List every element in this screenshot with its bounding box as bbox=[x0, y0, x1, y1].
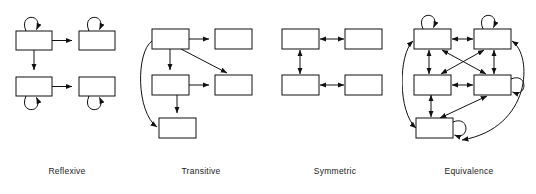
relation-properties-figure: Reflexive Transitive bbox=[0, 0, 536, 194]
edge-diagonal-arrow bbox=[181, 49, 227, 73]
panel-symmetric: Symmetric bbox=[268, 0, 402, 194]
equivalence-diagram bbox=[402, 0, 536, 165]
node-box bbox=[79, 31, 115, 50]
panel-transitive: Transitive bbox=[134, 0, 268, 194]
node-box bbox=[414, 75, 451, 95]
node-box bbox=[282, 75, 319, 95]
node-box bbox=[152, 29, 189, 49]
edge-diagonal-arrow bbox=[442, 50, 486, 74]
panel-label-symmetric: Symmetric bbox=[268, 165, 402, 177]
node-box bbox=[474, 29, 511, 49]
node-box bbox=[16, 77, 52, 96]
self-loop-icon bbox=[421, 15, 434, 29]
node-box bbox=[345, 29, 382, 49]
node-box bbox=[414, 29, 451, 49]
symmetric-diagram bbox=[268, 0, 402, 165]
node-box bbox=[345, 75, 382, 95]
panel-label-transitive: Transitive bbox=[134, 165, 268, 177]
edge-diagonal-arrow bbox=[440, 96, 487, 118]
node-box bbox=[79, 77, 115, 96]
node-box bbox=[215, 29, 252, 49]
self-loop-icon bbox=[87, 96, 100, 110]
reflexive-diagram bbox=[0, 0, 134, 165]
panel-reflexive: Reflexive bbox=[0, 0, 134, 194]
node-box bbox=[416, 118, 453, 138]
self-loop-icon bbox=[511, 78, 524, 93]
self-loop-icon bbox=[24, 17, 37, 31]
node-box bbox=[159, 118, 196, 138]
node-box bbox=[16, 31, 52, 50]
transitive-diagram bbox=[134, 0, 268, 165]
node-box bbox=[282, 29, 319, 49]
edge-diagonal-arrow bbox=[441, 50, 484, 74]
panel-label-reflexive: Reflexive bbox=[0, 165, 134, 177]
self-loop-icon bbox=[87, 17, 100, 31]
self-loop-icon bbox=[24, 96, 37, 110]
node-box bbox=[474, 75, 511, 95]
panel-equivalence: Equivalence bbox=[402, 0, 536, 194]
panel-label-equivalence: Equivalence bbox=[402, 165, 536, 177]
node-box bbox=[215, 75, 252, 95]
self-loop-icon bbox=[481, 15, 494, 29]
self-loop-icon bbox=[453, 121, 466, 136]
node-box bbox=[152, 75, 189, 95]
